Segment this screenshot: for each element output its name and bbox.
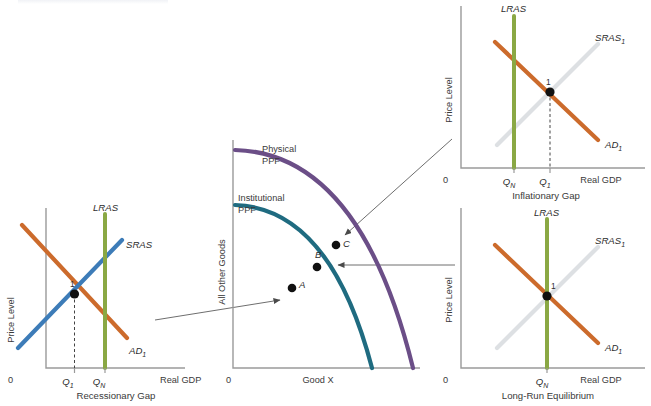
ppf-institutional-label-line1: Institutional [238,193,284,203]
ppf-point-a [288,284,297,293]
ppf-physical-label-line1: Physical [262,144,296,154]
inflationary-origin-label: 0 [443,175,448,185]
recessionary-axes [46,208,185,368]
ppf-point-a-label: A [298,279,305,290]
recessionary-y-axis-label: Price Level [6,297,16,342]
longrun-caption: Long-Run Equilibrium [502,390,594,401]
inflationary-caption: Inflationary Gap [512,190,580,201]
top-edge-artifact [18,0,168,4]
inflationary-xtick-q1: Q1 [539,176,550,189]
recessionary-ad-label: AD1 [128,345,146,358]
ppf-point-c [332,241,341,250]
ppf-point-c-label: C [343,238,350,249]
inflationary-equilibrium-point [545,87,554,96]
recessionary-sras-label: SRAS [126,239,153,250]
ppf-axes [233,140,420,368]
economics-figure-svg: 1 LRAS SRAS AD1 0 Q1 QN Real GDP Price L… [0,0,651,406]
ppf-institutional-label-line2: PPF [238,205,256,215]
ppf-point-b [313,263,322,272]
recessionary-lras-label: LRAS [93,202,119,213]
inflationary-x-axis-label: Real GDP [580,175,621,185]
longrun-ad-label: AD1 [604,342,622,355]
inflationary-equilibrium-label: 1 [546,77,551,87]
recessionary-x-axis-label: Real GDP [160,375,201,385]
longrun-x-axis-label: Real GDP [580,375,621,385]
chart-ppf: Physical PPF Institutional PPF A B C 0 G… [217,140,420,385]
ppf-x-axis-label: Good X [302,375,333,385]
recessionary-equilibrium-label: 1 [70,279,75,289]
inflationary-y-axis-label: Price Level [444,77,454,122]
longrun-lras-label: LRAS [534,207,560,218]
inflationary-ad-label: AD1 [604,139,622,152]
inflationary-lras-label: LRAS [501,3,527,14]
chart-inflationary-gap: 1 LRAS SRAS1 AD1 0 QN Q1 Real GDP Price … [443,3,645,201]
ppf-physical-label-line2: PPF [262,156,280,166]
inflationary-xtick-qn: QN [503,176,516,189]
recessionary-origin-label: 0 [8,375,13,385]
recessionary-xtick-q1: Q1 [62,376,73,389]
longrun-equilibrium-point [542,291,551,300]
figure-canvas: 1 LRAS SRAS AD1 0 Q1 QN Real GDP Price L… [0,0,651,406]
ppf-y-axis-label: All Other Goods [217,239,227,305]
chart-long-run-equilibrium: 1 LRAS SRAS1 AD1 0 QN Real GDP Price Lev… [443,207,645,401]
ppf-origin-label: 0 [226,375,231,385]
ppf-point-b-label: B [315,249,322,260]
chart-recessionary-gap: 1 LRAS SRAS AD1 0 Q1 QN Real GDP Price L… [6,202,201,401]
connector-inflationary-to-point-c [345,139,452,235]
longrun-origin-label: 0 [443,375,448,385]
recessionary-caption: Recessionary Gap [77,390,156,401]
inflationary-sras-label: SRAS1 [595,32,625,45]
longrun-xtick-qn: QN [536,376,549,389]
longrun-sras-label: SRAS1 [595,235,625,248]
longrun-equilibrium-label: 1 [551,281,556,291]
longrun-y-axis-label: Price Level [444,277,454,322]
recessionary-xtick-qn: QN [93,376,106,389]
recessionary-equilibrium-point [70,289,79,298]
